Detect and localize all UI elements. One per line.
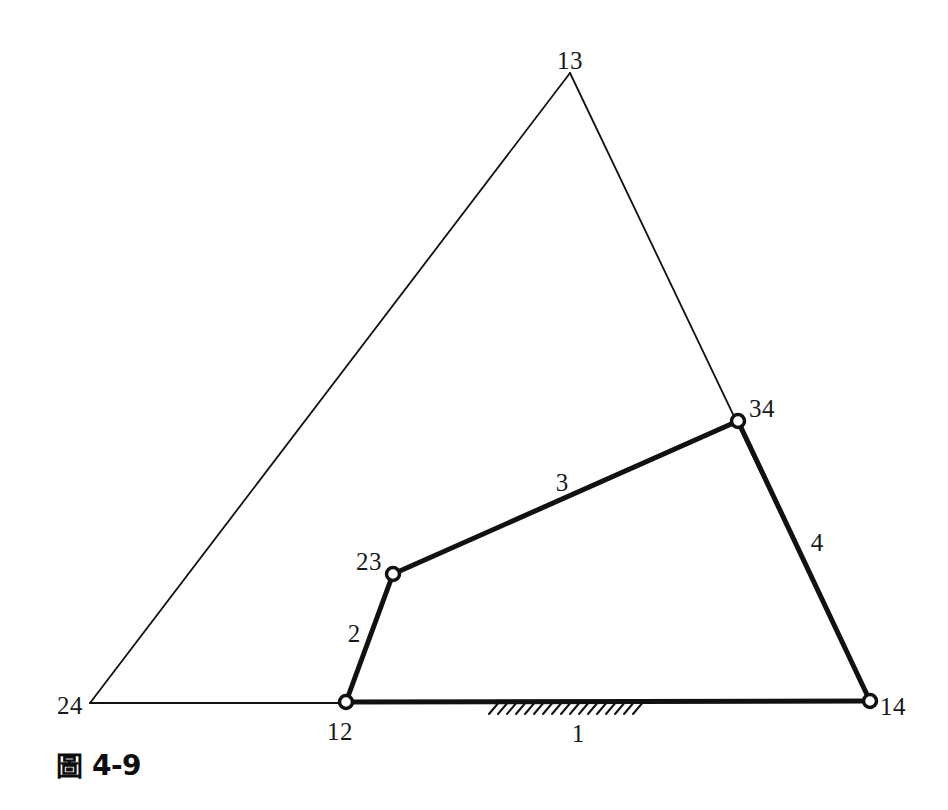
link-label-4: 4 [811,530,824,555]
instant-center-label-24: 24 [57,693,83,718]
joint-marker-34 [732,415,745,428]
joint-marker-14 [864,695,877,708]
link-label-1: 1 [572,721,585,746]
figure-caption: 圖 4-9 [56,752,141,780]
joint-label-23: 23 [356,549,382,574]
linkage-diagram [0,0,948,810]
link-4-output [738,421,870,701]
joint-marker-12 [340,696,353,709]
joint-label-12: 12 [327,719,353,744]
link-label-3: 3 [556,470,569,495]
figure-caption-number: 4-9 [92,752,141,780]
instant-center-label-13: 13 [557,48,583,73]
link-3-coupler [393,421,738,574]
link-label-2: 2 [348,621,361,646]
joint-label-34: 34 [749,396,775,421]
construction-line-24-13 [90,73,570,703]
joint-marker-23 [387,568,400,581]
figure-container: 12 23 34 14 13 24 1 2 3 4 圖 4-9 [0,0,948,810]
figure-caption-prefix: 圖 [56,753,83,780]
joint-label-14: 14 [880,694,906,719]
